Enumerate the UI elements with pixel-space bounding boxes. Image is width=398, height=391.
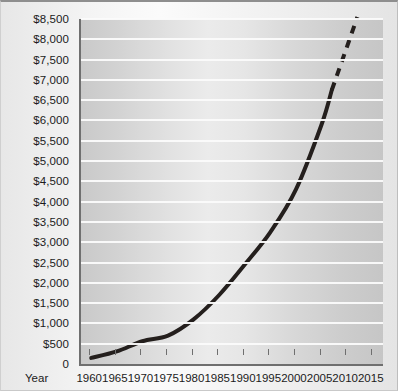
y-axis-tick-label: $2,500 xyxy=(33,257,69,269)
y-axis-tick-label: $6,000 xyxy=(33,114,69,126)
y-axis-tick-label: $7,500 xyxy=(33,54,69,66)
line-actual xyxy=(91,90,332,358)
gridline xyxy=(81,221,383,223)
x-axis-tick xyxy=(294,349,295,355)
x-axis-tick xyxy=(217,349,218,355)
y-axis-tick-label: 0 xyxy=(63,358,70,370)
y-axis-tick-label: $4,500 xyxy=(33,175,69,187)
gridline xyxy=(81,99,383,101)
y-axis-tick-label: $1,500 xyxy=(33,297,69,309)
plot-area xyxy=(79,19,383,366)
gridline xyxy=(81,119,383,121)
y-axis-tick-label: $2,000 xyxy=(33,277,69,289)
x-axis-tick-label: 2015 xyxy=(358,372,384,384)
gridline xyxy=(81,201,383,203)
x-axis-tick-label: 1995 xyxy=(256,372,282,384)
y-axis-tick-label: $6,500 xyxy=(33,94,69,106)
gridline xyxy=(81,38,383,40)
y-axis-tick-label: $7,000 xyxy=(33,74,69,86)
x-axis-tick xyxy=(140,349,141,355)
y-axis-tick-label: $4,000 xyxy=(33,196,69,208)
x-axis-tick xyxy=(268,349,269,355)
x-axis-tick-label: 2000 xyxy=(281,372,307,384)
gridline xyxy=(81,160,383,162)
gridline xyxy=(81,302,383,304)
x-axis-tick xyxy=(89,349,90,355)
gridline xyxy=(81,343,383,345)
y-axis-tick-label: $3,000 xyxy=(33,236,69,248)
gridline xyxy=(81,282,383,284)
gridline xyxy=(81,241,383,243)
y-axis-tick-label: $1,000 xyxy=(33,317,69,329)
gridline xyxy=(81,262,383,264)
x-axis-tick xyxy=(115,349,116,355)
y-axis-tick-label: $3,500 xyxy=(33,216,69,228)
x-axis-tick xyxy=(320,349,321,355)
y-axis-tick-label: $5,500 xyxy=(33,135,69,147)
chart-figure: 0$500$1,000$1,500$2,000$2,500$3,000$3,50… xyxy=(0,0,398,391)
x-axis-tick-label: 1975 xyxy=(153,372,179,384)
x-axis-tick-label: 1970 xyxy=(128,372,154,384)
gridline xyxy=(81,18,383,20)
y-axis-tick-label: $8,500 xyxy=(33,13,69,25)
x-axis-tick xyxy=(166,349,167,355)
y-axis-tick-label: $5,000 xyxy=(33,155,69,167)
gridline xyxy=(81,79,383,81)
x-axis-tick xyxy=(371,349,372,355)
gridline xyxy=(81,180,383,182)
y-axis-tick-label: $500 xyxy=(43,338,69,350)
x-axis-tick-label: 1960 xyxy=(76,372,102,384)
x-axis-tick-label: 2005 xyxy=(307,372,333,384)
gridline xyxy=(81,322,383,324)
x-axis-tick xyxy=(192,349,193,355)
y-axis-tick-label: $8,000 xyxy=(33,33,69,45)
x-axis-tick-label: 1965 xyxy=(102,372,128,384)
series-canvas xyxy=(81,19,383,364)
x-axis-tick-label: 1980 xyxy=(179,372,205,384)
x-axis-tick-label: 1985 xyxy=(204,372,230,384)
x-axis-tick-label: 2010 xyxy=(332,372,358,384)
gridline xyxy=(81,140,383,142)
x-axis-tick xyxy=(243,349,244,355)
x-axis-tick xyxy=(345,349,346,355)
x-axis-tick-label: 1990 xyxy=(230,372,256,384)
gridline xyxy=(81,59,383,61)
y-axis-labels: 0$500$1,000$1,500$2,000$2,500$3,000$3,50… xyxy=(1,2,75,391)
x-axis-title: Year xyxy=(25,372,48,384)
